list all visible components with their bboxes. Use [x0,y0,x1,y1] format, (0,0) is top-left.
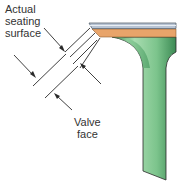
face-line-inner [80,38,100,68]
seat-label-leader [44,28,63,49]
valve-face-label: Valve face [74,116,101,140]
seat-arrow-lower [14,55,33,75]
face-arrow-upper [83,66,101,84]
seat-line-outer [65,28,90,52]
seat-line-inner [70,33,95,57]
valve-face-band [92,29,176,37]
seat-extension-line [33,54,66,86]
actual-seating-surface-label: Actual seating surface [5,3,41,39]
valve-diagram: Actual seating surface Valve face [0,0,183,189]
face-label-leader [57,96,72,110]
face-extension-line [45,66,78,98]
arrowhead [30,71,36,78]
